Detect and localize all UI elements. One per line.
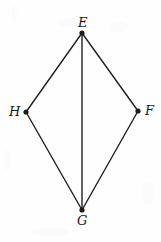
vertex-label-F: F [145, 104, 154, 117]
vertex-dot-G [79, 207, 84, 212]
vertex-label-H: H [9, 105, 20, 118]
edges-group [26, 33, 138, 210]
vertex-dot-H [23, 109, 28, 114]
geometry-figure-canvas: E F G H [0, 0, 161, 242]
vertex-label-G: G [77, 214, 87, 227]
vertex-dot-E [79, 30, 84, 35]
vertex-dot-F [135, 108, 140, 113]
vertex-label-E: E [78, 16, 88, 29]
kite-shape [0, 0, 161, 242]
edge-HG [26, 112, 82, 210]
edge-FG [82, 111, 138, 210]
edge-EH [26, 33, 82, 112]
edge-EF [82, 33, 138, 111]
